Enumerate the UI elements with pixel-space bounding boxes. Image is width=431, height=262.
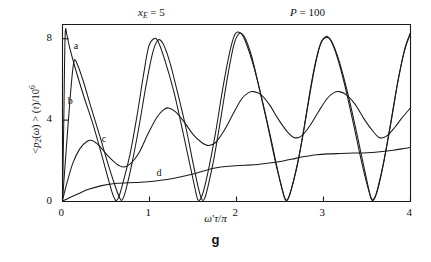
- y-tick-label: 4: [47, 112, 53, 124]
- annotation-p: P = 100: [290, 6, 325, 18]
- x-tick-label: 4: [407, 206, 413, 218]
- x-tick-label: 3: [320, 206, 326, 218]
- curve-label-c: c: [102, 133, 106, 144]
- x-tick-label: 0: [59, 206, 65, 218]
- y-axis-label: <p2(ω) > (τ)/106: [28, 35, 43, 205]
- figure-panel-g: xE = a5 P = 100 <p2(ω) > (τ)/106 ω'τ/π g…: [0, 0, 431, 262]
- panel-caption: g: [0, 232, 431, 247]
- plot-frame: [63, 25, 411, 202]
- y-tick-label: 0: [47, 194, 53, 206]
- axis-ticks: [63, 39, 411, 202]
- curve-b: [63, 33, 411, 201]
- x-axis-label: ω'τ/π: [0, 212, 431, 224]
- curve-d: [63, 147, 411, 201]
- curve-a: [63, 29, 411, 201]
- x-tick-label: 2: [233, 206, 239, 218]
- x-tick-label: 1: [146, 206, 152, 218]
- y-tick-label: 8: [47, 31, 53, 43]
- annotation-x-sub-e: xE = a5: [138, 6, 165, 20]
- curve-label-a: a: [74, 40, 78, 51]
- data-curves: [63, 29, 411, 201]
- curve-label-d: d: [156, 167, 161, 178]
- curve-label-b: b: [68, 95, 73, 106]
